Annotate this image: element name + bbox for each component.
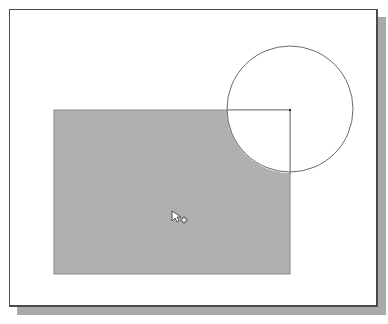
circle-center-point [289, 109, 291, 111]
drawing-canvas[interactable] [0, 0, 388, 324]
